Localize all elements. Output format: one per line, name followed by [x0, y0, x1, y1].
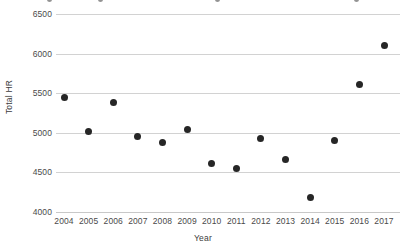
gridline — [56, 172, 400, 173]
x-axis-title: Year — [0, 233, 406, 243]
gridline — [56, 93, 400, 94]
y-axis-tick-label: 5000 — [18, 128, 52, 138]
data-point — [208, 160, 215, 167]
data-point — [85, 128, 92, 135]
gridline — [56, 133, 400, 134]
gridline — [56, 14, 400, 15]
y-axis-tick-labels: 400045005000550060006500 — [14, 0, 52, 213]
y-axis-tick-label: 6000 — [18, 49, 52, 59]
data-point — [159, 139, 166, 146]
data-point — [282, 156, 289, 163]
plot-area — [56, 0, 400, 213]
x-axis-tick-label: 2017 — [369, 216, 399, 226]
data-point — [61, 94, 68, 101]
scatter-chart: 400045005000550060006500 200420052006200… — [0, 0, 406, 250]
data-point — [381, 42, 388, 49]
y-axis-tick-label: 5500 — [18, 88, 52, 98]
data-point — [257, 135, 264, 142]
data-point — [110, 99, 117, 106]
y-axis-tick-label: 4500 — [18, 167, 52, 177]
y-axis-title: Total HR — [4, 67, 14, 127]
gridline — [56, 212, 400, 213]
data-point — [307, 194, 314, 201]
y-axis-tick-label: 6500 — [18, 9, 52, 19]
x-axis-tick-labels: 2004200520062007200820092010201120122013… — [0, 214, 406, 230]
data-point — [184, 126, 191, 133]
gridline — [56, 54, 400, 55]
data-point — [134, 133, 141, 140]
data-point — [331, 137, 338, 144]
data-point — [233, 165, 240, 172]
data-point — [356, 81, 363, 88]
